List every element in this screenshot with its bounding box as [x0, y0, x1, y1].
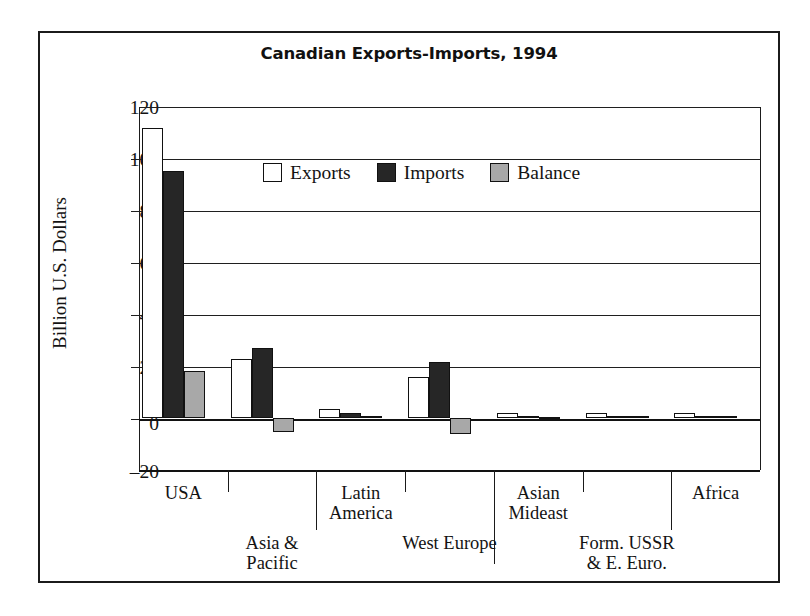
category-label-line: Latin [288, 484, 433, 504]
category-label-line: Asian [466, 484, 611, 504]
category-label-usa: USA [111, 484, 256, 504]
bar-exports-usa [142, 128, 163, 418]
gridline-80 [139, 211, 760, 212]
category-label-line: Mideast [466, 504, 611, 524]
bar-imports-asian-mideast [518, 416, 539, 419]
bar-imports-latin-america [340, 413, 361, 418]
x-axis-line [139, 470, 760, 472]
y-axis-title: Billion U.S. Dollars [49, 153, 71, 393]
gridline-60 [139, 263, 760, 264]
imports-swatch-icon [377, 163, 396, 182]
legend-entry-imports: Imports [377, 163, 465, 183]
bar-exports-form-ussr-e-euro [586, 413, 607, 418]
page-title: Canadian Exports-Imports, 1994 [38, 44, 780, 63]
balance-swatch-icon [490, 163, 509, 182]
gridline-100 [139, 159, 760, 160]
category-label-line: America [288, 504, 433, 524]
category-label-form-ussr-e-euro: Form. USSR& E. Euro. [555, 534, 700, 573]
bar-imports-form-ussr-e-euro [607, 416, 628, 419]
figure: Canadian Exports-Imports, 1994 Billion U… [0, 0, 810, 616]
bar-exports-africa [674, 413, 695, 418]
legend: Exports Imports Balance [263, 163, 580, 183]
category-label-line: Asia & [200, 534, 345, 554]
bar-balance-usa [184, 371, 205, 418]
bar-exports-west-europe [408, 377, 429, 418]
legend-label-exports: Exports [290, 163, 351, 183]
bar-exports-asia-pacific [231, 359, 252, 419]
bar-balance-latin-america [361, 416, 382, 419]
bar-exports-asian-mideast [497, 413, 518, 418]
y-tick-mark-60 [131, 263, 139, 264]
legend-label-imports: Imports [404, 163, 465, 183]
category-label-line: USA [111, 484, 256, 504]
category-label-latin-america: LatinAmerica [288, 484, 433, 523]
legend-entry-exports: Exports [263, 163, 351, 183]
category-label-line: & E. Euro. [555, 554, 700, 574]
bar-imports-asia-pacific [252, 348, 273, 418]
bar-balance-west-europe [450, 418, 471, 434]
plot-right-spine [760, 107, 761, 470]
exports-swatch-icon [263, 163, 282, 182]
category-label-asia-pacific: Asia &Pacific [200, 534, 345, 573]
category-label-line: West Europe [377, 534, 522, 554]
bar-exports-latin-america [319, 409, 340, 418]
legend-label-balance: Balance [517, 163, 580, 183]
bar-balance-form-ussr-e-euro [628, 416, 649, 419]
plot-left-spine [139, 107, 140, 470]
y-tick-mark-0 [131, 419, 139, 420]
category-label-line: Pacific [200, 554, 345, 574]
bar-balance-asia-pacific [273, 418, 294, 432]
bar-imports-usa [163, 171, 184, 419]
legend-entry-balance: Balance [490, 163, 580, 183]
bar-balance-asian-mideast [539, 417, 560, 419]
category-label-asian-mideast: AsianMideast [466, 484, 611, 523]
y-tick-mark-40 [131, 315, 139, 316]
bar-imports-africa [695, 416, 716, 419]
y-tick-mark-100 [131, 159, 139, 160]
y-tick-mark-20 [131, 367, 139, 368]
category-label-west-europe: West Europe [377, 534, 522, 554]
category-label-africa: Africa [643, 484, 788, 504]
gridline-120 [139, 107, 760, 108]
bar-balance-africa [716, 416, 737, 419]
category-label-line: Form. USSR [555, 534, 700, 554]
bar-imports-west-europe [429, 362, 450, 418]
gridline-40 [139, 315, 760, 316]
y-tick-mark-80 [131, 211, 139, 212]
category-label-line: Africa [643, 484, 788, 504]
